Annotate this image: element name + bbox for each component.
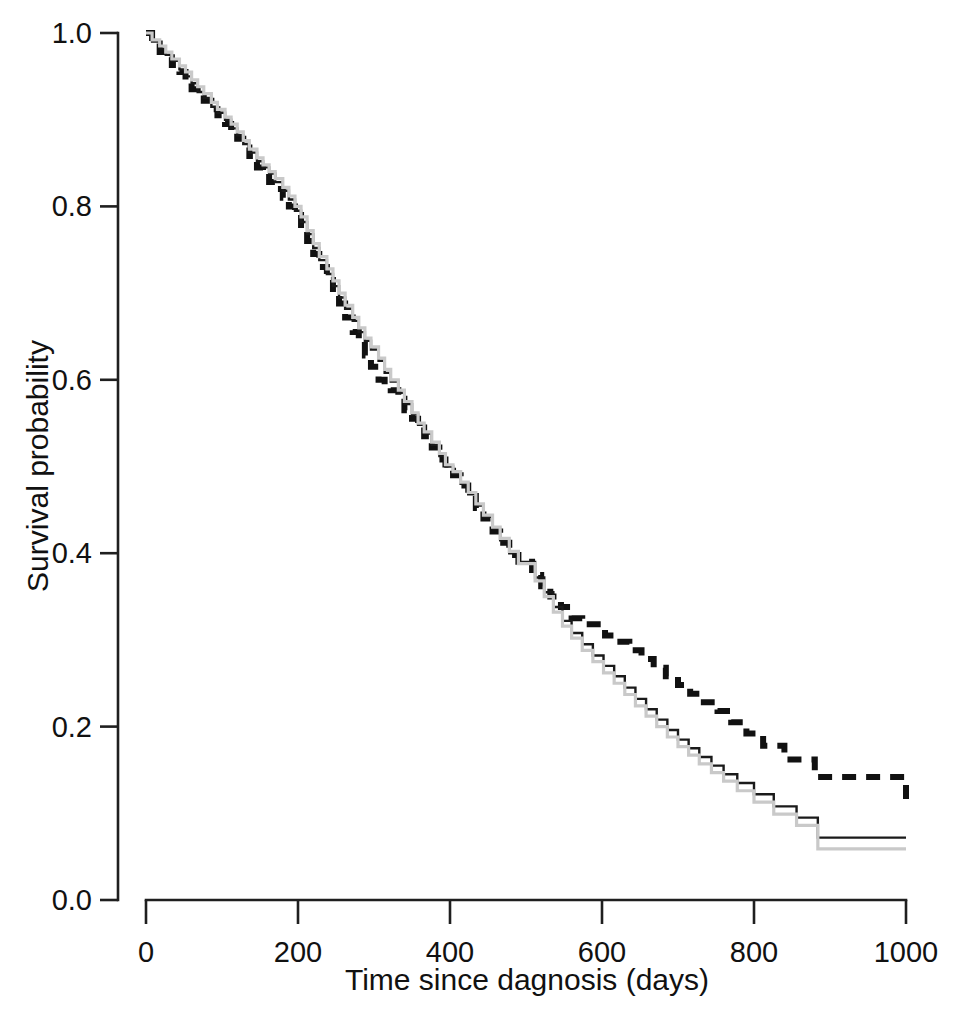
black-dashed-curve [146, 33, 906, 802]
y-tick-label: 0.0 [52, 884, 92, 916]
x-axis-title: Time since dagnosis (days) [345, 963, 709, 996]
x-tick-label: 0 [138, 936, 154, 968]
survival-curve-figure: 0.00.20.40.60.81.0 02004006008001000 Sur… [0, 0, 967, 1022]
x-tick-group [146, 900, 906, 924]
x-tick-label: 200 [274, 936, 322, 968]
y-tick-group [100, 33, 118, 900]
gray-curve [146, 33, 906, 849]
y-tick-label-group: 0.00.20.40.60.81.0 [52, 17, 92, 916]
x-tick-label: 800 [730, 936, 778, 968]
black-solid-curve [146, 33, 906, 838]
y-tick-label: 0.6 [52, 364, 92, 396]
kaplan-meier-plot: 0.00.20.40.60.81.0 02004006008001000 Sur… [0, 0, 967, 1022]
page-caption-text [0, 996, 967, 1009]
y-tick-label: 0.8 [52, 190, 92, 222]
page-caption-strip [0, 996, 967, 1022]
series-group [146, 33, 906, 849]
y-tick-label: 0.4 [52, 537, 92, 569]
x-tick-label: 1000 [874, 936, 939, 968]
y-axis-title: Survival probability [21, 340, 54, 592]
y-tick-label: 0.2 [52, 711, 92, 743]
y-tick-label: 1.0 [52, 17, 92, 49]
